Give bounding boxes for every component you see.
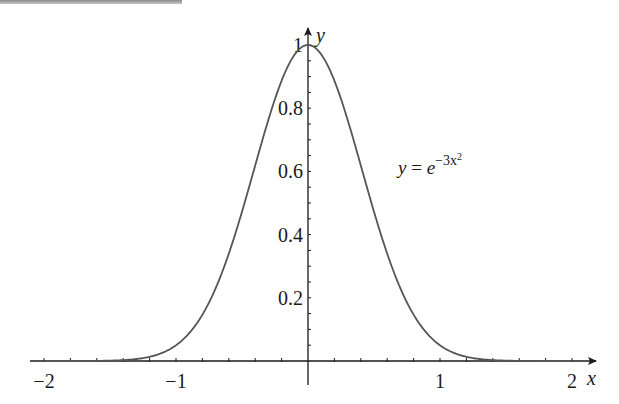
y-axis-label: y: [314, 24, 325, 47]
y-tick-label: 0.2: [278, 287, 303, 309]
x-tick-labels: −2−112: [33, 370, 577, 392]
y-tick-labels: 0.20.40.60.81: [278, 34, 303, 309]
y-tick-label: 0.6: [278, 160, 303, 182]
x-axis-label: x: [586, 367, 596, 389]
x-tick-label: −2: [33, 370, 54, 392]
x-tick-label: 1: [435, 370, 445, 392]
x-tick-label: −1: [165, 370, 186, 392]
plot-area: −2−112 0.20.40.60.81 x y y = e−3x2: [0, 0, 619, 404]
x-tick-label: 2: [567, 370, 577, 392]
y-tick-label: 0.4: [278, 224, 303, 246]
y-tick-label: 0.8: [278, 97, 303, 119]
equation-label: y = e−3x2: [396, 151, 462, 178]
y-tick-label: 1: [293, 34, 303, 56]
